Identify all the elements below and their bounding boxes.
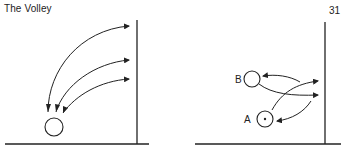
arc-arrow-mid bbox=[56, 60, 129, 112]
arc-arrow-low bbox=[63, 79, 129, 113]
arrow-b-to-wall bbox=[259, 84, 318, 95]
ball-circle bbox=[45, 118, 63, 136]
arc-arrow-mid-return-head bbox=[55, 104, 60, 112]
player-a-dot bbox=[264, 118, 266, 120]
arc-arrow-high bbox=[48, 26, 129, 112]
volley-diagrams: B A bbox=[0, 0, 356, 155]
player-a-label: A bbox=[244, 114, 251, 125]
figure-right: B A bbox=[195, 22, 341, 144]
arrow-wall-to-b bbox=[263, 75, 300, 82]
arrow-wall-to-a bbox=[277, 101, 311, 121]
player-b-circle bbox=[244, 71, 260, 87]
figure-left bbox=[5, 20, 149, 144]
player-b-label: B bbox=[235, 74, 242, 85]
